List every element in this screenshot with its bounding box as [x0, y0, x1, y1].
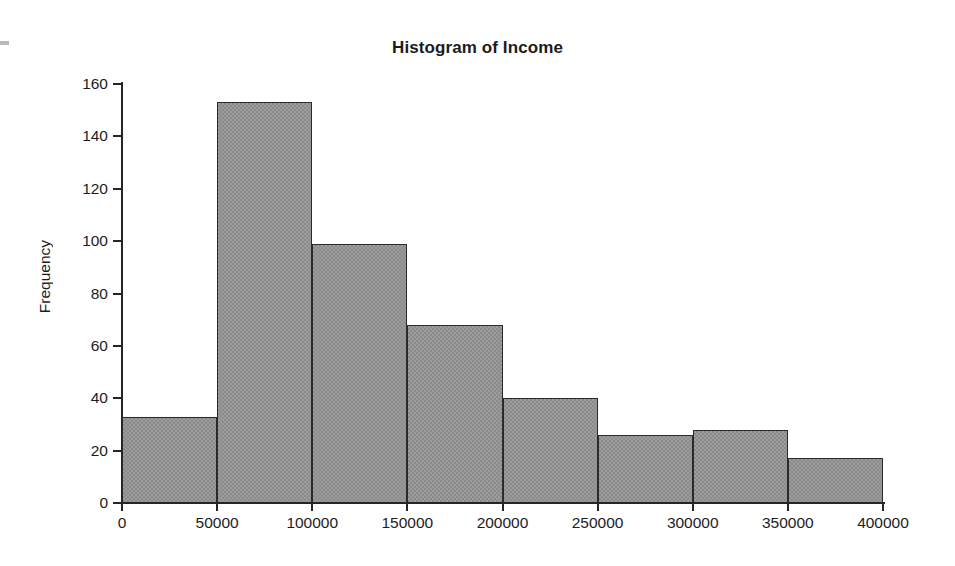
- x-axis-tick: [216, 503, 218, 511]
- histogram-bar: [693, 430, 788, 503]
- y-axis-tick: [113, 83, 121, 85]
- y-axis-tick-label: 40: [60, 389, 108, 407]
- y-axis-title: Frequency: [36, 240, 54, 313]
- y-axis-tick: [113, 502, 121, 504]
- x-axis-tick: [311, 503, 313, 511]
- histogram-figure: Histogram of Income Frequency 0204060801…: [0, 0, 955, 566]
- x-axis-tick: [121, 503, 123, 511]
- histogram-bar: [122, 417, 217, 503]
- y-axis-tick: [113, 135, 121, 137]
- x-axis-tick: [692, 503, 694, 511]
- x-axis-tick: [882, 503, 884, 511]
- histogram-bar: [407, 325, 502, 503]
- y-axis-tick-label: 160: [60, 75, 108, 93]
- histogram-bar: [788, 458, 883, 503]
- plot-area: [122, 84, 883, 503]
- y-axis-tick-label: 20: [60, 442, 108, 460]
- x-axis-tick: [597, 503, 599, 511]
- x-axis-tick: [787, 503, 789, 511]
- y-axis-tick-label: 140: [60, 127, 108, 145]
- y-axis-tick-label: 0: [60, 494, 108, 512]
- histogram-bar: [598, 435, 693, 503]
- x-axis-tick: [502, 503, 504, 511]
- y-axis-tick-label: 60: [60, 337, 108, 355]
- histogram-bar: [217, 102, 312, 503]
- bars-group: [122, 84, 883, 503]
- y-axis-tick: [113, 293, 121, 295]
- chart-title: Histogram of Income: [0, 38, 955, 58]
- histogram-bar: [312, 244, 407, 503]
- y-axis-tick-label: 80: [60, 285, 108, 303]
- y-axis-tick: [113, 188, 121, 190]
- x-axis-tick: [406, 503, 408, 511]
- histogram-bar: [503, 398, 598, 503]
- y-axis-tick: [113, 397, 121, 399]
- y-axis-tick: [113, 345, 121, 347]
- x-axis-tick-label: 400000: [823, 514, 943, 532]
- y-axis-tick: [113, 240, 121, 242]
- y-axis-tick-label: 100: [60, 232, 108, 250]
- y-axis-tick: [113, 450, 121, 452]
- y-axis-line: [121, 82, 123, 505]
- y-axis-tick-label: 120: [60, 180, 108, 198]
